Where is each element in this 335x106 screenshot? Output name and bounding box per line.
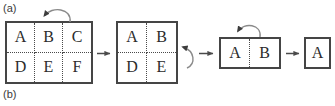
grid-cell: A	[7, 23, 35, 53]
panel-label-a: (a)	[3, 3, 16, 14]
grid-1x2: A B	[219, 37, 281, 69]
grid-cell: A	[118, 23, 147, 53]
grid-cell: A	[306, 39, 329, 67]
grid-2x2: A B D E	[116, 21, 178, 84]
grid-cell: B	[250, 39, 279, 67]
grid-3x2: A B C D E F	[5, 21, 93, 84]
grid-cell: A	[221, 39, 250, 67]
grid-1x1: A	[304, 37, 331, 69]
grid-cell: D	[7, 53, 35, 83]
grid-cell: F	[63, 53, 91, 83]
grid-cell: D	[118, 53, 147, 83]
grid-cell: E	[147, 53, 176, 83]
curved-arrow-remove-row-stage2	[183, 47, 193, 68]
curved-arrow-remove-column-stage3	[238, 25, 260, 37]
grid-cell: B	[35, 23, 63, 53]
figure-panel: (a) (b) A B C D E F A B D E A B A	[0, 0, 335, 106]
grid-cell: B	[147, 23, 176, 53]
grid-cell: E	[35, 53, 63, 83]
grid-cell: C	[63, 23, 91, 53]
panel-label-b: (b)	[3, 89, 16, 100]
